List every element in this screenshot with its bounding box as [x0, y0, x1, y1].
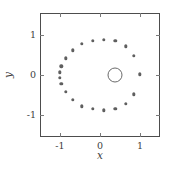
y-tick-mark: [40, 35, 44, 36]
x-tick-mark: [100, 13, 101, 17]
y-tick-mark: [156, 115, 160, 116]
y-tick-label: 0: [18, 70, 36, 80]
y-tick-mark: [156, 75, 160, 76]
x-tick-label: 1: [137, 141, 143, 151]
x-tick-mark: [60, 13, 61, 17]
x-tick-mark: [100, 133, 101, 137]
x-axis-label: x: [97, 150, 103, 161]
scatter-figure: -101-101 x y: [0, 0, 172, 171]
x-tick-label: -1: [55, 141, 64, 151]
y-tick-mark: [40, 115, 44, 116]
y-axis-label: y: [3, 72, 14, 78]
x-tick-mark: [60, 133, 61, 137]
y-tick-label: -1: [18, 110, 36, 120]
y-tick-mark: [40, 75, 44, 76]
x-tick-mark: [140, 133, 141, 137]
plot-area: [40, 13, 160, 137]
open-circle-marker: [108, 68, 123, 83]
y-tick-mark: [156, 35, 160, 36]
y-tick-label: 1: [18, 30, 36, 40]
x-tick-mark: [140, 13, 141, 17]
